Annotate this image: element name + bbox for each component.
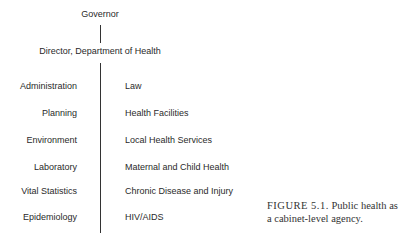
left-unit: Epidemiology [23,212,77,222]
left-unit: Laboratory [34,162,77,172]
right-unit: Health Facilities [125,108,189,118]
right-unit: Chronic Disease and Injury [125,186,233,196]
director-node: Director, Department of Health [0,46,200,56]
left-unit: Administration [20,81,77,91]
connector-line-main [100,63,101,233]
right-unit: Maternal and Child Health [125,162,229,172]
right-unit: HIV/AIDS [125,212,164,222]
left-unit: Planning [42,108,77,118]
right-unit: Law [125,81,142,91]
left-unit: Environment [26,135,77,145]
figure-caption: FIGURE 5.1. Public health as a cabinet-l… [267,199,400,225]
connector-line-governor [100,25,101,43]
caption-label: FIGURE 5.1. [267,200,329,211]
governor-node: Governor [0,9,200,19]
left-unit: Vital Statistics [21,186,77,196]
right-unit: Local Health Services [125,135,212,145]
